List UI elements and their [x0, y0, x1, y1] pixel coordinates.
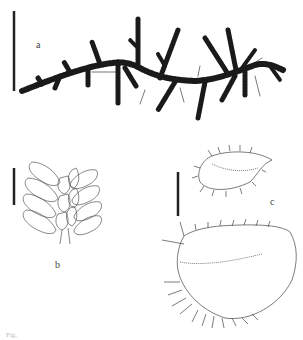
figure-caption: Fig.	[6, 331, 17, 339]
panel-label-b: b	[55, 259, 60, 270]
figure-illustration: a b c	[0, 0, 303, 340]
panel-label-a: a	[36, 39, 41, 50]
panel-c: c	[162, 145, 296, 328]
moss-shoot	[22, 18, 283, 118]
panel-a: a	[14, 11, 283, 118]
panel-b: b	[14, 162, 102, 270]
panel-label-c: c	[270, 196, 275, 207]
